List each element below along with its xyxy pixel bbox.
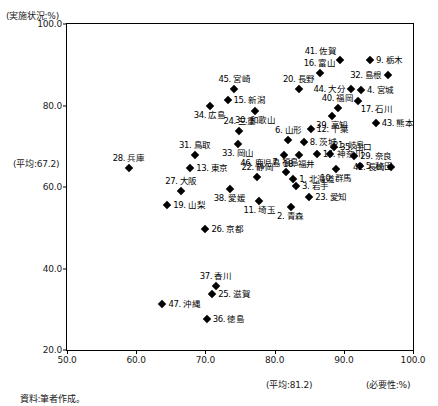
scatter-point-label: 32. 島根 — [350, 71, 382, 80]
scatter-point-label: 25. 滋賀 — [218, 290, 250, 299]
scatter-point-label: 23. 愛知 — [315, 193, 347, 202]
scatter-point-label: 22. 静岡 — [241, 163, 273, 172]
diamond-marker-icon — [158, 300, 166, 308]
scatter-point-label: 24. 三重 — [223, 117, 255, 126]
diamond-marker-icon — [281, 168, 289, 176]
x-axis-tick-mark — [136, 350, 137, 354]
diamond-marker-icon — [384, 70, 392, 78]
diamond-marker-icon — [332, 165, 340, 173]
y-mean-annotation: (平均:67.2) — [13, 157, 59, 170]
scatter-point-label: 28. 兵庫 — [113, 154, 145, 163]
diamond-marker-icon — [191, 151, 199, 159]
diamond-marker-icon — [255, 197, 263, 205]
diamond-marker-icon — [313, 150, 321, 158]
diamond-marker-icon — [235, 127, 243, 135]
diamond-marker-icon — [335, 56, 343, 64]
scatter-point-label: 20. 長野 — [283, 75, 315, 84]
scatter-point-label: 27. 大阪 — [165, 177, 197, 186]
diamond-marker-icon — [284, 136, 292, 144]
scatter-point-label: 31. 鳥取 — [179, 141, 211, 150]
plot-area: 100.080.060.040.020.050.060.070.080.090.… — [66, 23, 414, 351]
scatter-point-label: 6. 山形 — [275, 126, 302, 135]
diamond-marker-icon — [371, 119, 379, 127]
scatter-point-label: 41. 佐賀 — [305, 47, 337, 56]
diamond-marker-icon — [205, 102, 213, 110]
x-axis-tick-mark — [344, 350, 345, 354]
diamond-marker-icon — [163, 201, 171, 209]
diamond-marker-icon — [253, 173, 261, 181]
scatter-point-label: 36. 徳島 — [213, 315, 245, 324]
x-axis-title: (必要性:%) — [366, 378, 410, 391]
diamond-marker-icon — [306, 124, 314, 132]
scatter-point-label: 38. 愛媛 — [214, 194, 246, 203]
scatter-point-label: 12. 千葉 — [317, 125, 349, 134]
source-note: 資料:筆者作成。 — [20, 392, 84, 405]
diamond-marker-icon — [177, 187, 185, 195]
y-axis-tick-mark — [63, 24, 67, 25]
scatter-point-label: 37. 香川 — [200, 272, 232, 281]
diamond-marker-icon — [357, 86, 365, 94]
scatter-point-label: 11. 埼玉 — [243, 206, 275, 215]
scatter-point-label: 3. 岩手 — [302, 182, 329, 191]
y-axis-tick-mark — [63, 105, 67, 106]
diamond-marker-icon — [286, 203, 294, 211]
y-axis-tick-mark — [63, 187, 67, 188]
scatter-point-label: 21. 岐阜 — [333, 141, 365, 150]
diamond-marker-icon — [295, 85, 303, 93]
diamond-marker-icon — [234, 140, 242, 148]
scatter-point-label: 15. 新潟 — [234, 96, 266, 105]
scatter-point-label: 16. 富山 — [304, 59, 336, 68]
y-axis-tick-mark — [63, 268, 67, 269]
scatter-point-label: 13. 東京 — [196, 164, 228, 173]
x-axis-tick-mark — [67, 350, 68, 354]
x-axis-tick-mark — [275, 350, 276, 354]
scatter-point-label: 4. 宮城 — [367, 86, 394, 95]
scatter-point-label: 45. 宮崎 — [219, 75, 251, 84]
diamond-marker-icon — [186, 164, 194, 172]
diamond-marker-icon — [230, 85, 238, 93]
diamond-marker-icon — [305, 193, 313, 201]
scatter-point-label: 42. 長崎 — [353, 163, 385, 172]
x-mean-annotation: (平均:81.2) — [266, 378, 312, 391]
scatter-point-label: 34. 広島 — [194, 111, 226, 120]
diamond-marker-icon — [203, 315, 211, 323]
x-axis-tick-mark — [205, 350, 206, 354]
diamond-marker-icon — [366, 56, 374, 64]
scatter-point-label: 7. 福島 — [272, 158, 299, 167]
diamond-marker-icon — [225, 185, 233, 193]
diamond-marker-icon — [223, 96, 231, 104]
scatter-chart-figure: (実施状況:%) (平均:67.2) (平均:81.2) (必要性:%) 資料:… — [0, 0, 438, 406]
scatter-point-label: 33. 岡山 — [222, 149, 254, 158]
scatter-point-label: 17. 石川 — [361, 105, 393, 114]
diamond-marker-icon — [208, 290, 216, 298]
diamond-marker-icon — [333, 103, 341, 111]
x-axis-tick-mark — [413, 350, 414, 354]
scatter-point-label: 19. 山梨 — [173, 201, 205, 210]
scatter-point-label: 40. 福岡 — [322, 94, 354, 103]
diamond-marker-icon — [299, 138, 307, 146]
diamond-marker-icon — [328, 112, 336, 120]
diamond-marker-icon — [124, 164, 132, 172]
scatter-point-label: 26. 京都 — [211, 225, 243, 234]
scatter-point-label: 47. 沖縄 — [168, 300, 200, 309]
scatter-point-label: 2. 青森 — [277, 212, 304, 221]
scatter-point-label: 43. 熊本 — [382, 119, 414, 128]
diamond-marker-icon — [315, 69, 323, 77]
scatter-point-label: 9. 栃木 — [376, 56, 403, 65]
diamond-marker-icon — [251, 107, 259, 115]
diamond-marker-icon — [201, 224, 209, 232]
scatter-point-label: 29. 奈良 — [360, 152, 392, 161]
